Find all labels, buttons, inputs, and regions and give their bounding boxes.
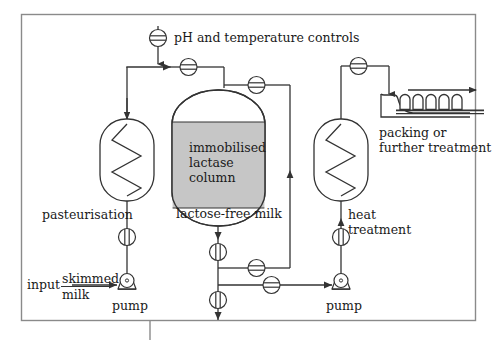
bottle-5: [452, 95, 462, 110]
label-skimmed: skimmed: [62, 271, 119, 286]
label-column-line1: immobilised: [189, 140, 266, 155]
bottle-group: [400, 95, 462, 110]
label-packing-line2: further treatment: [379, 140, 491, 155]
label-lactose-free-milk: lactose-free milk: [176, 206, 282, 221]
valve-recycle-return[interactable]: [248, 260, 265, 277]
label-heat-treatment-line1: heat: [348, 207, 376, 222]
label-ph-temperature-controls: pH and temperature controls: [174, 30, 359, 45]
valve-column-outlet[interactable]: [210, 244, 227, 261]
process-flow-diagram: pH and temperature controls immobilised …: [0, 0, 497, 340]
pasteurisation-heat-exchanger[interactable]: [100, 119, 154, 201]
label-pump-right: pump: [326, 298, 362, 313]
valve-drain[interactable]: [210, 292, 227, 309]
label-heat-treatment-line2: treatment: [348, 222, 411, 237]
valve-packing-inlet[interactable]: [350, 58, 367, 75]
valve-column-inlet[interactable]: [180, 59, 197, 76]
valve-product-outlet[interactable]: [263, 277, 280, 294]
label-milk: milk: [62, 287, 90, 302]
valve-column-top-recycle[interactable]: [248, 77, 265, 94]
bottle-1: [400, 95, 410, 110]
label-packing-line1: packing or: [379, 125, 447, 140]
heat-treatment-heat-exchanger[interactable]: [314, 119, 368, 201]
bottle-4: [439, 95, 449, 110]
bottle-3: [426, 95, 436, 110]
label-column-line3: column: [189, 170, 235, 185]
valve-pasteuriser-inlet[interactable]: [119, 229, 136, 246]
label-column-line2: lactase: [189, 155, 234, 170]
valve-ph-temperature[interactable]: [150, 30, 167, 47]
label-input: input: [27, 277, 60, 292]
bottle-2: [413, 95, 423, 110]
valve-heat-treatment-inlet[interactable]: [333, 229, 350, 246]
label-pasteurisation: pasteurisation: [42, 207, 133, 222]
figure-canvas: pH and temperature controls immobilised …: [0, 0, 497, 340]
label-pump-left: pump: [112, 298, 148, 313]
